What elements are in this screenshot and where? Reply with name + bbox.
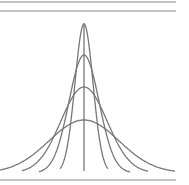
bell-curve-figure bbox=[0, 0, 189, 185]
curves-group bbox=[0, 24, 175, 172]
bell-curves-diagram bbox=[0, 0, 189, 185]
bell-curve-medium bbox=[22, 87, 148, 171]
bell-curve-widest bbox=[0, 120, 175, 171]
